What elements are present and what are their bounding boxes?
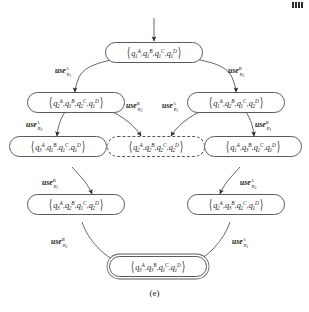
edge-label-mid-left: useBR2: [126, 101, 142, 113]
state-tuple: ⟨q2A,q1B,q2C,q1D⟩: [46, 96, 106, 109]
corner-marks: [292, 2, 303, 8]
state-tuple: ⟨q1A,q2B,q1C,q2D⟩: [206, 96, 266, 109]
state-tuple: ⟨q1A,q1B,q1C,q1D⟩: [124, 46, 184, 59]
state-tuple: ⟨q3A,q1B,q1C,q1D⟩: [28, 140, 88, 153]
edge-label-mid-right: useAR1: [162, 101, 178, 113]
corner-mark: [295, 2, 297, 8]
edge-label-left-lower: useBR1: [42, 178, 58, 190]
edge-label-right-upper: useBR1: [255, 120, 271, 132]
edge-top-to-left2: [75, 58, 122, 92]
edge-left2-to-left3: [57, 112, 65, 136]
edge-label-top-left: useAR1: [55, 66, 71, 78]
state-node-initial[interactable]: ⟨q1A,q1B,q1C,q1D⟩: [105, 42, 203, 63]
edge-label-top-right: useBR2: [228, 66, 244, 78]
state-node-left-3[interactable]: ⟨q3A,q1B,q1C,q1D⟩: [9, 136, 107, 157]
state-tuple: ⟨q2A,q2B,q2C,q2D⟩: [126, 140, 186, 153]
state-node-right-4[interactable]: ⟨q2A,q3B,q2C,q1D⟩: [187, 194, 285, 215]
state-tuple: ⟨q1A,q3B,q1C,q1D⟩: [223, 140, 283, 153]
figure-canvas: ⟨q1A,q1B,q1C,q1D⟩ ⟨q2A,q1B,q2C,q1D⟩ ⟨q1A…: [0, 0, 309, 312]
state-tuple: ⟨q2A,q3B,q2C,q1D⟩: [206, 198, 266, 211]
state-tuple: ⟨q3A,q2B,q1C,q2D⟩: [46, 198, 106, 211]
state-node-left-2[interactable]: ⟨q2A,q1B,q2C,q1D⟩: [27, 92, 125, 113]
state-node-left-4[interactable]: ⟨q3A,q2B,q1C,q2D⟩: [27, 194, 125, 215]
corner-mark: [301, 2, 303, 8]
edge-label-right-lower: useAR2: [240, 178, 256, 190]
edge-right2-to-mid: [171, 112, 199, 136]
state-tuple: ⟨q3A,q3B,q1C,q1D⟩: [128, 260, 188, 273]
figure-caption: (e): [0, 288, 309, 298]
edge-label-left-upper: useAR2: [26, 120, 42, 132]
edge-label-right-final: useAR1: [232, 237, 248, 249]
edge-right2-to-right3: [246, 112, 254, 136]
edge-left2-to-mid: [113, 112, 141, 136]
edge-right3-to-right4: [220, 167, 240, 194]
corner-mark: [292, 2, 294, 8]
edge-left3-to-left4: [72, 167, 92, 194]
state-node-right-3[interactable]: ⟨q1A,q3B,q1C,q1D⟩: [204, 136, 302, 157]
edge-label-left-final: useBR2: [51, 237, 67, 249]
state-node-final[interactable]: ⟨q3A,q3B,q1C,q1D⟩: [109, 256, 207, 277]
corner-mark: [298, 2, 300, 8]
state-node-right-2[interactable]: ⟨q1A,q2B,q1C,q2D⟩: [187, 92, 285, 113]
state-node-deadlock[interactable]: ⟨q2A,q2B,q2C,q2D⟩: [107, 136, 205, 157]
